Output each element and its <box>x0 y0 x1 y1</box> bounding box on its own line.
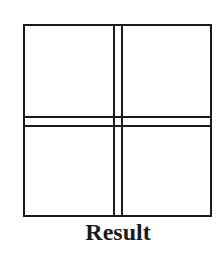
result-frame <box>23 24 212 217</box>
diagram-caption: Result <box>0 219 218 246</box>
cross-center-gap <box>115 118 122 126</box>
quadrant-top-right <box>123 26 211 116</box>
quadrant-top-left <box>25 26 113 116</box>
quadrant-bottom-left <box>25 127 113 216</box>
quadrant-bottom-right <box>123 127 211 216</box>
